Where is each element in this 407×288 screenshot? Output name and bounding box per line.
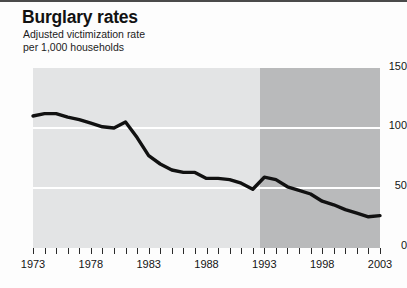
chart-figure: Burglary rates Adjusted victimization ra… [0,0,407,288]
x-axis-tick-label: 1993 [252,258,276,270]
x-axis-tick [160,248,161,254]
x-axis-tick [91,248,92,254]
x-axis-tick-label: 1983 [136,258,160,270]
x-axis-tick [137,248,138,254]
x-axis-tick [149,248,150,254]
chart-subtitle: Adjusted victimization rate per 1,000 ho… [23,28,145,53]
x-axis-tick [380,248,381,254]
x-axis-tick [345,248,346,254]
x-axis-tick [287,248,288,254]
x-axis-tick [299,248,300,254]
y-axis-tick-0: 0 [379,239,407,251]
x-axis-tick [368,248,369,254]
x-axis-tick [264,248,265,254]
plot-area [33,68,380,248]
x-axis-tick [126,248,127,254]
x-axis-tick-label: 1998 [310,258,334,270]
x-axis-tick [218,248,219,254]
x-axis-tick [56,248,57,254]
chart-title: Burglary rates [22,7,138,28]
x-axis-tick [79,248,80,254]
x-axis-tick-label: 1973 [21,258,45,270]
x-axis-tick [276,248,277,254]
x-axis-tick-label: 1978 [79,258,103,270]
x-axis-tick [334,248,335,254]
y-axis-tick-100: 100 [379,119,407,131]
x-axis-tick [183,248,184,254]
x-axis-tick-label: 2003 [368,258,392,270]
series-line-burglary-rate [33,68,380,248]
x-axis-tick [311,248,312,254]
x-axis-tick [195,248,196,254]
y-axis-tick-150: 150 [379,60,407,72]
x-axis-tick [33,248,34,254]
x-axis-tick [68,248,69,254]
x-axis-tick-label: 1988 [194,258,218,270]
y-axis-tick-50: 50 [379,179,407,191]
x-axis: 1973197819831988199319982003 [33,248,380,249]
x-axis-tick [114,248,115,254]
x-axis-tick [230,248,231,254]
x-axis-tick [102,248,103,254]
x-axis-tick [357,248,358,254]
x-axis-tick [241,248,242,254]
x-axis-tick [253,248,254,254]
x-axis-tick [172,248,173,254]
x-axis-tick [322,248,323,254]
x-axis-tick [45,248,46,254]
x-axis-tick [207,248,208,254]
